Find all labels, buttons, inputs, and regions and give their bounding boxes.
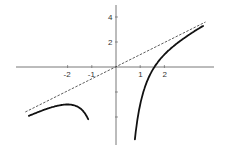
function-plot: -2-11242: [0, 0, 229, 154]
x-tick-label: 2: [162, 70, 167, 79]
plot-series: [25, 22, 205, 139]
axis-ticks: -2-11242: [64, 13, 168, 117]
curve-branch: [135, 26, 203, 139]
y-tick-label: 4: [108, 13, 113, 22]
curve-branch: [29, 105, 88, 120]
y-tick-label: 2: [108, 38, 113, 47]
x-tick-label: -2: [64, 70, 72, 79]
x-tick-label: 1: [138, 70, 143, 79]
